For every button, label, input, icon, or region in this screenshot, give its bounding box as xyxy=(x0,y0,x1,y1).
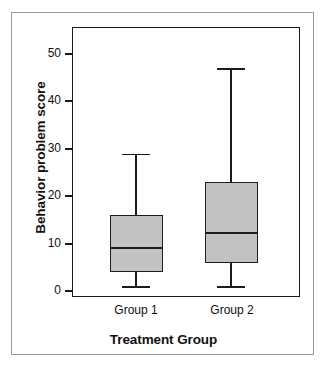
whisker-upper-line xyxy=(230,68,232,182)
y-tick-mark xyxy=(65,290,72,292)
figure-canvas: Behavior problem score 50 40 30 20 10 0 … xyxy=(0,0,327,368)
y-tick-label: 20 xyxy=(48,188,61,202)
y-tick-mark xyxy=(65,53,72,55)
median-line xyxy=(205,232,258,234)
y-tick-label: 10 xyxy=(48,236,61,250)
whisker-lower-cap xyxy=(122,286,150,288)
y-tick-label: 40 xyxy=(48,93,61,107)
y-tick-label: 50 xyxy=(48,46,61,60)
median-line xyxy=(110,247,163,249)
box-group-2 xyxy=(205,182,258,263)
y-tick-label: 30 xyxy=(48,141,61,155)
x-axis-title: Treatment Group xyxy=(0,332,327,347)
y-tick-mark xyxy=(65,148,72,150)
whisker-lower-line xyxy=(135,272,137,286)
box-group-1 xyxy=(110,215,163,272)
y-tick-mark xyxy=(65,100,72,102)
x-tick-label-group-2: Group 2 xyxy=(172,303,292,317)
plot-area xyxy=(72,27,300,297)
y-tick-label: 0 xyxy=(54,283,61,297)
whisker-upper-cap xyxy=(122,154,150,156)
whisker-upper-line xyxy=(135,154,137,216)
whisker-lower-line xyxy=(230,263,232,287)
y-tick-mark xyxy=(65,243,72,245)
y-axis-title: Behavior problem score xyxy=(33,58,48,258)
y-tick-mark xyxy=(65,195,72,197)
whisker-upper-cap xyxy=(217,68,245,70)
whisker-lower-cap xyxy=(217,286,245,288)
